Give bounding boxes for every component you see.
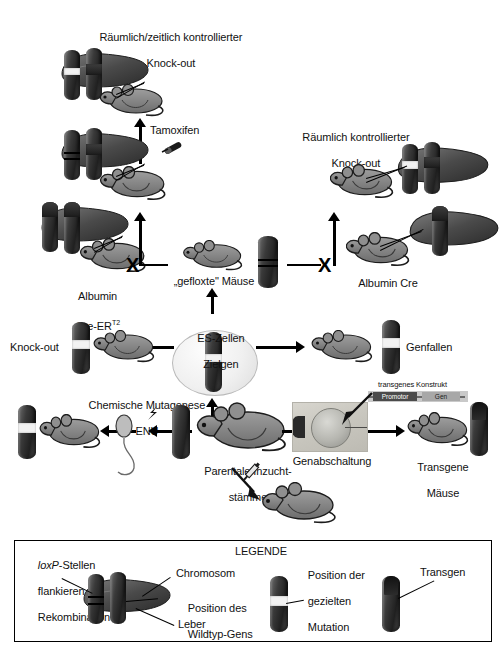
spatiotemporal-ko-title-line1: Räumlich/zeitlich kontrollierter — [99, 31, 242, 43]
cross-line-right — [287, 264, 321, 266]
chromosome-ko-right — [424, 142, 440, 194]
albumin-cre-ert2-line1: Albumin — [78, 290, 117, 302]
transgenic-mice-line2: Mäuse — [427, 487, 460, 499]
chromosome-parental — [172, 405, 190, 459]
arrow-egg-to-transgenic-right — [368, 424, 406, 438]
legend-title: LEGENDE — [216, 545, 306, 558]
mouse-icon-floxed — [176, 240, 248, 272]
legend-chromosome-label: Chromosom — [176, 567, 256, 580]
liver-icon — [404, 206, 502, 262]
legend-loxp-italic: loxP — [38, 559, 59, 571]
transgenic-mice-line1: Transgene — [417, 461, 468, 473]
transgene-cap — [472, 402, 486, 420]
injection-needle — [345, 427, 368, 428]
construct-right-spacer — [460, 396, 465, 398]
legend-transgene-cap — [384, 576, 398, 595]
legend-wildtype-line1: Position des — [188, 602, 247, 614]
es-cells-line1: ES-Zellen — [197, 332, 244, 344]
promotor-segment: Promotor — [373, 392, 417, 401]
floxed-mice-label: „gefloxte" Mäuse — [162, 275, 266, 288]
albumin-cre-ert2-sup: T2 — [112, 319, 120, 326]
chromosome-transgene-left — [42, 202, 58, 252]
cross-symbol-left: X — [126, 255, 139, 275]
albumin-cre-label: Albumin Cre — [340, 277, 436, 290]
spatiotemporal-ko-illustration — [56, 48, 196, 120]
mouse-icon-knockout — [90, 330, 164, 364]
legend-chromosome-transgene — [382, 576, 400, 632]
legend-targeted-line2: gezielten — [308, 595, 351, 607]
legend-liver-label: Leber — [178, 618, 238, 631]
legend-targeted-line1: Position der — [308, 569, 365, 581]
mouse-icon-transgenic — [404, 412, 478, 448]
es-cells-label: ES-Zellen Zielgen — [171, 319, 259, 384]
chromosome-floxed-left — [64, 130, 80, 180]
albumin-cre-ert2-illustration — [56, 128, 206, 206]
mouse-icon-parental-strain — [190, 402, 296, 454]
mouse-icon-enu-mutant — [36, 414, 110, 450]
holding-pipette — [292, 416, 305, 438]
chromosome-floxed-center — [258, 236, 278, 288]
legend-transgene-label: Transgen — [420, 566, 490, 579]
transgenic-mice-label: Transgene Mäuse — [398, 448, 476, 513]
gene-traps-label: Genfallen — [406, 341, 486, 354]
chromosome-enu-mutant — [18, 405, 36, 459]
knock-out-label: Knock-out — [10, 341, 72, 354]
chromosome-knockout — [72, 322, 90, 374]
arrow-right-breeding-up — [327, 212, 341, 266]
arrow-construct-to-egg — [334, 391, 376, 427]
figure-canvas: Räumlich/zeitlich kontrollierter Knock-o… — [0, 0, 503, 660]
legend-targeted-mutation-label: Position der gezielten Mutation — [296, 556, 392, 647]
albumin-cre-ert2-parent-illustration — [36, 202, 186, 280]
chromosome-floxed-left — [64, 50, 80, 100]
arrow-es-to-genetraps-right — [256, 340, 306, 354]
chromosome-ko-left — [402, 144, 418, 194]
enu-bolt-icon — [144, 404, 162, 422]
legend-chromosome-wildtype — [110, 572, 126, 624]
spatial-ko-illustration — [330, 142, 496, 212]
gen-segment: Gen — [422, 392, 460, 401]
mouse-icon-knockdown — [256, 482, 342, 524]
arrow-es-to-floxed-up — [205, 288, 219, 314]
transgenic-construct-title: transgenes Konstrukt — [378, 381, 488, 389]
chromosome-cre-transgene — [432, 206, 448, 256]
albumin-cre-illustration — [346, 206, 502, 278]
legend-loxp-rest: -Stellen — [59, 559, 96, 571]
legend-chromosome-loxp — [88, 574, 104, 624]
chromosome-genetrap — [382, 320, 400, 374]
es-cells-line2: Zielgen — [203, 358, 238, 370]
legend-targeted-line3: Mutation — [308, 621, 349, 633]
transgenic-construct: Promotor Gen — [368, 391, 468, 402]
mouse-icon-genetraps — [308, 330, 382, 364]
cross-line-left — [140, 264, 168, 266]
gene-knockdown-label: Genabschaltung — [284, 455, 380, 468]
